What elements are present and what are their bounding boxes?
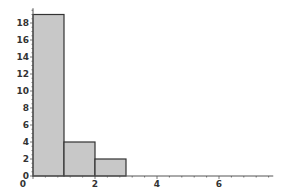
y-tick-label: 10 <box>16 86 29 96</box>
x-axis-ticks: 0246 <box>20 176 269 189</box>
y-tick-label: 6 <box>23 120 29 130</box>
y-tick-label: 2 <box>23 154 29 164</box>
histogram-chart: 024681012141618 0246 <box>0 0 287 196</box>
x-tick-label: 0 <box>20 179 26 189</box>
y-tick-label: 18 <box>16 18 29 28</box>
x-tick-label: 6 <box>216 179 222 189</box>
y-tick-label: 8 <box>23 103 29 113</box>
histogram-bar <box>33 15 64 177</box>
y-axis-ticks: 024681012141618 <box>16 10 33 181</box>
y-tick-label: 4 <box>23 137 29 147</box>
y-tick-label: 16 <box>16 35 29 45</box>
histogram-bar <box>64 142 95 176</box>
y-tick-label: 14 <box>16 52 29 62</box>
x-tick-label: 4 <box>154 179 160 189</box>
histogram-bars <box>33 15 126 177</box>
x-tick-label: 2 <box>92 179 98 189</box>
y-tick-label: 12 <box>16 69 29 79</box>
histogram-bar <box>95 159 126 176</box>
